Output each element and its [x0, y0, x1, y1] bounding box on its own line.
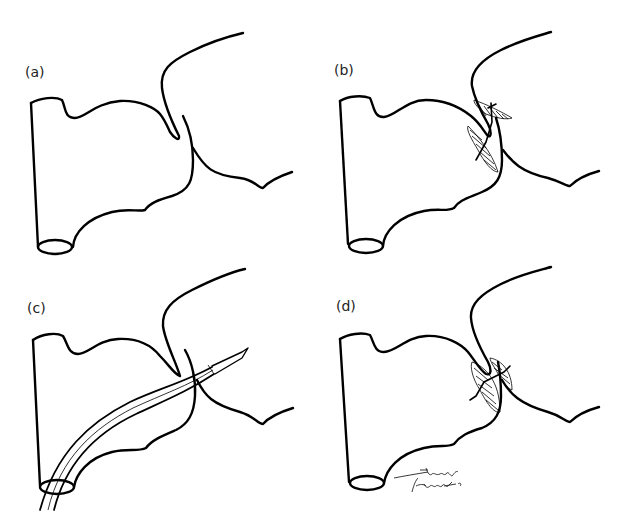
catheter-needle: [40, 348, 248, 510]
panel-d: (d) Tinsley: [316, 262, 631, 525]
anatomy-drawing-d: [316, 262, 631, 525]
panel-a: (a): [0, 0, 316, 262]
anatomy-drawing-b: [316, 0, 631, 262]
artist-signature: [394, 468, 461, 492]
anatomy-drawing-c: [0, 262, 316, 525]
occluder-device-d: [470, 358, 512, 412]
panel-c: (c): [0, 262, 316, 525]
anatomy-drawing-a: [0, 0, 316, 262]
panel-b: (b): [316, 0, 631, 262]
